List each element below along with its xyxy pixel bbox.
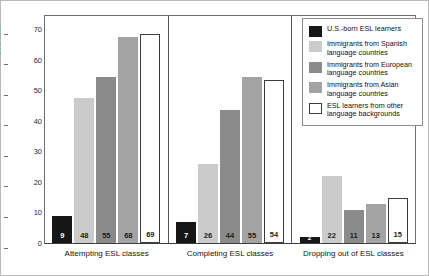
- y-axis-tick: 10: [8, 208, 42, 218]
- legend-label: Immigrants from Europeanlanguage countri…: [327, 61, 412, 79]
- y-axis-tick: 70: [8, 25, 42, 35]
- bar-slot: 7: [176, 16, 196, 243]
- y-axis-tick-label: 0: [38, 239, 42, 248]
- y-axis-tick-mark: [4, 186, 8, 187]
- y-axis-tick: 20: [8, 178, 42, 188]
- bar-value-label: 55: [96, 232, 116, 240]
- legend-swatch-icon: [309, 41, 322, 52]
- chart-figure: Percent 010203040506070 9485568697264455…: [0, 0, 429, 276]
- bar[interactable]: 55: [96, 77, 116, 243]
- legend-label-line2: language backgrounds: [327, 110, 403, 119]
- legend-item[interactable]: U.S.-born ESL learners: [309, 25, 417, 37]
- bar-slot: 55: [242, 16, 262, 243]
- y-axis-tick: 0: [8, 239, 42, 249]
- bar-value-label: 68: [118, 232, 138, 240]
- bar-value-label: 55: [242, 232, 262, 240]
- bar-value-label: 2: [300, 235, 320, 242]
- y-axis-tick-label: 50: [34, 86, 42, 95]
- legend-label: ESL learners from otherlanguage backgrou…: [327, 102, 403, 120]
- legend-item[interactable]: Immigrants from Europeanlanguage countri…: [309, 61, 417, 79]
- bar-slot: 54: [264, 16, 284, 243]
- chart-legend: U.S.-born ESL learnersImmigrants from Sp…: [302, 18, 423, 126]
- bar-slot: 26: [198, 16, 218, 243]
- legend-label-line2: language countries: [327, 69, 412, 78]
- legend-label: U.S.-born ESL learners: [327, 25, 401, 34]
- x-axis-category-label: Attempting ESL classes: [45, 249, 168, 258]
- bar[interactable]: 54: [264, 80, 284, 243]
- bar[interactable]: 2: [300, 237, 320, 243]
- y-axis-tick-label: 60: [34, 56, 42, 65]
- bar-value-label: 7: [176, 232, 196, 240]
- y-axis-tick-mark: [4, 125, 8, 126]
- bar-value-label: 48: [74, 232, 94, 240]
- y-axis-tick-mark: [4, 248, 8, 249]
- bar-value-label: 26: [198, 232, 218, 240]
- legend-swatch-icon: [309, 62, 322, 73]
- legend-label: Immigrants from Asianlanguage countries: [327, 81, 399, 99]
- bar-value-label: 13: [366, 232, 386, 240]
- x-axis-labels: Attempting ESL classesCompleting ESL cla…: [45, 249, 415, 258]
- x-axis-category-label: Completing ESL classes: [168, 249, 291, 258]
- bar-value-label: 11: [344, 232, 364, 240]
- legend-item[interactable]: Immigrants from Asianlanguage countries: [309, 81, 417, 99]
- legend-swatch-icon: [309, 103, 322, 114]
- y-axis-tick-label: 40: [34, 117, 42, 126]
- bar-value-label: 54: [265, 231, 283, 239]
- legend-swatch-icon: [309, 26, 322, 37]
- y-axis-tick-label: 30: [34, 147, 42, 156]
- legend-label-line2: language countries: [327, 90, 399, 99]
- legend-item[interactable]: Immigrants from Spanishlanguage countrie…: [309, 40, 417, 58]
- y-axis-title-text: Percent: [0, 45, 2, 63]
- legend-label-line1: U.S.-born ESL learners: [327, 25, 401, 34]
- bar-slot: 55: [96, 16, 116, 243]
- bar[interactable]: 7: [176, 222, 196, 243]
- bar-group: 726445554: [168, 16, 292, 243]
- bar[interactable]: 48: [74, 98, 94, 243]
- bar[interactable]: 15: [388, 198, 408, 243]
- legend-swatch-icon: [309, 82, 322, 93]
- bar[interactable]: 26: [198, 164, 218, 243]
- bar[interactable]: 44: [220, 110, 240, 243]
- y-axis-tick-mark: [4, 217, 8, 218]
- y-axis-tick-mark: [4, 156, 8, 157]
- bar-slot: 68: [118, 16, 138, 243]
- bar-value-label: 69: [141, 231, 159, 239]
- y-axis-tick-label: 20: [34, 178, 42, 187]
- legend-label: Immigrants from Spanishlanguage countrie…: [327, 40, 407, 58]
- x-axis-category-label: Dropping out of ESL classes: [292, 249, 415, 258]
- legend-label-line2: language countries: [327, 49, 407, 58]
- y-axis-tick: 60: [8, 56, 42, 66]
- bar[interactable]: 68: [118, 37, 138, 243]
- bar[interactable]: 13: [366, 204, 386, 243]
- y-axis-tick: 30: [8, 147, 42, 157]
- y-axis-tick-label: 70: [34, 25, 42, 34]
- bar-value-label: 15: [389, 231, 407, 239]
- bar-slot: 69: [140, 16, 160, 243]
- bar-slot: 44: [220, 16, 240, 243]
- legend-item[interactable]: ESL learners from otherlanguage backgrou…: [309, 102, 417, 120]
- y-axis-tick-mark: [4, 95, 8, 96]
- bar[interactable]: 69: [140, 34, 160, 243]
- bar-slot: 48: [74, 16, 94, 243]
- bar[interactable]: 9: [52, 216, 72, 243]
- bar[interactable]: 55: [242, 77, 262, 243]
- y-axis-tick-label: 10: [34, 208, 42, 217]
- bar-value-label: 9: [52, 232, 72, 240]
- y-axis-tick-mark: [4, 64, 8, 65]
- bar[interactable]: 11: [344, 210, 364, 243]
- bar-group: 948556869: [45, 16, 168, 243]
- y-axis-tick: 50: [8, 86, 42, 96]
- bar-value-label: 44: [220, 232, 240, 240]
- bar[interactable]: 22: [322, 176, 342, 243]
- bar-slot: 9: [52, 16, 72, 243]
- y-axis-tick-mark: [4, 34, 8, 35]
- y-axis-tick: 40: [8, 117, 42, 127]
- bar-value-label: 22: [322, 232, 342, 240]
